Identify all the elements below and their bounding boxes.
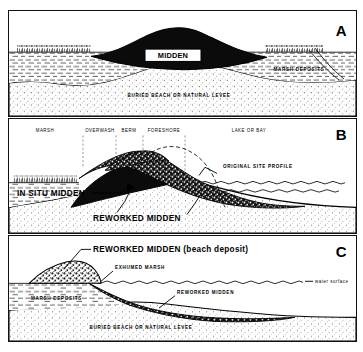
panel-letter-b: B — [336, 127, 347, 142]
reworked-beach-mound-c — [29, 261, 101, 283]
label-reworked-midden-c: REWORKED MIDDEN — [177, 290, 234, 295]
figure-container: MIDDEN MARSH DEPOSITS BURIED BEACH OR NA… — [0, 0, 363, 352]
label-original-site-profile: ORIGINAL SITE PROFILE — [223, 164, 293, 169]
label-buried-beach-a: BURIED BEACH OR NATURAL LEVEE — [128, 93, 231, 98]
label-exhumed-marsh: EXHUMED MARSH — [115, 265, 165, 270]
zone-label-foreshore: FORESHORE — [148, 128, 181, 133]
label-reworked-midden-b: REWORKED MIDDEN — [93, 213, 181, 223]
water-surface-c — [87, 281, 303, 284]
panel-a: MIDDEN MARSH DEPOSITS BURIED BEACH OR NA… — [8, 10, 357, 117]
zone-label-lake-or-bay: LAKE OR BAY — [232, 128, 267, 133]
label-in-situ-midden: IN SITU MIDDEN — [17, 188, 85, 198]
zone-label-overwash: OVERWASH — [85, 128, 115, 133]
label-reworked-beach-deposit: REWORKED MIDDEN (beach deposit) — [93, 244, 248, 254]
panel-c: EXHUMED MARSH REWORKED MIDDEN (beach dep… — [8, 235, 357, 342]
panel-letter-a: A — [336, 23, 347, 38]
label-marsh-deposits-c: MARSH DEPOSITS — [31, 296, 82, 301]
label-buried-beach-c: BURIED BEACH OR NATURAL LEVEE — [90, 325, 193, 330]
panel-letter-c: C — [336, 244, 347, 259]
label-marsh-deposits-a: MARSH DEPOSITS — [273, 67, 324, 72]
panel-b: MARSH OVERWASH BERM FORESHORE LAKE OR BA… — [8, 118, 357, 234]
zone-label-berm: BERM — [122, 128, 137, 133]
zone-label-marsh: MARSH — [36, 128, 55, 133]
label-water-surface: water surface — [315, 279, 349, 284]
label-midden: MIDDEN — [158, 51, 188, 60]
